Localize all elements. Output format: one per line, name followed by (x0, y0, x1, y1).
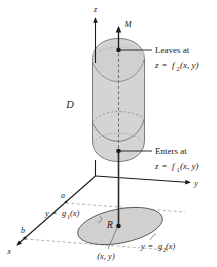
g2-leader-curve (150, 234, 156, 240)
enters-eq-f: f (172, 161, 176, 171)
point-xy-dot (116, 224, 121, 229)
leaves-eq-z: z (154, 60, 159, 70)
x-axis-label: x (6, 247, 11, 256)
g1-eq-g: g (62, 208, 66, 218)
z-axis-label: z (93, 5, 98, 14)
figure-container: D z y x a b R M (0, 0, 217, 267)
line-M-label: M (123, 19, 132, 29)
enters-at-text: Enters at (155, 146, 187, 156)
leaves-equation: z = f 2 (x, y) (154, 60, 198, 72)
solid-label-D: D (65, 99, 74, 110)
g2-eq-g: g (158, 241, 162, 251)
g1-eq-args: (x) (70, 208, 80, 218)
leaves-eq-args: (x, y) (180, 60, 198, 70)
enters-equation: z = f 1 (x, y) (154, 161, 198, 173)
g1-eq-y: y (44, 208, 49, 218)
y-axis-label: y (193, 179, 198, 188)
solid-region-D: D (65, 39, 144, 162)
g2-eq-equals: = (148, 241, 153, 251)
y-axis-line (96, 176, 191, 183)
g2-eq-args: (x) (166, 241, 176, 251)
point-xy-label: (x, y) (97, 251, 115, 261)
leaves-eq-equals: = (162, 60, 167, 70)
g1-eq-equals: = (52, 208, 57, 218)
leaves-eq-f: f (172, 60, 176, 70)
g2-eq-y: y (140, 241, 145, 251)
enters-eq-args: (x, y) (180, 161, 198, 171)
enters-eq-z: z (154, 161, 159, 171)
enters-eq-equals: = (162, 161, 167, 171)
annotation-g2: y = g 2 (x) (140, 234, 176, 253)
type-1-solid-region-diagram: D z y x a b R M (0, 0, 217, 267)
region-label-R: R (106, 220, 113, 230)
leaves-at-text: Leaves at (155, 45, 190, 55)
a-label: a (61, 191, 65, 200)
b-label: b (21, 226, 25, 235)
